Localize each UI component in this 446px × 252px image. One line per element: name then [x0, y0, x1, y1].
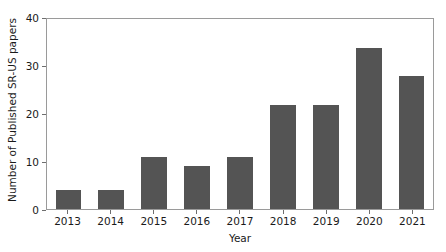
plot-area: [46, 18, 434, 210]
bar: [98, 190, 124, 209]
x-axis-tick-label: 2018: [270, 215, 297, 227]
x-axis-tick-label: 2016: [184, 215, 211, 227]
x-axis-tick-label: 2013: [54, 215, 81, 227]
x-axis-tick-mark: [196, 210, 197, 214]
bar: [141, 157, 167, 209]
y-axis-tick-label: 30: [26, 59, 39, 73]
x-axis-tick: 2019: [305, 210, 348, 232]
x-axis-tick-mark: [110, 210, 111, 214]
x-axis-ticks: 201320142015201620172018201920202021: [46, 210, 434, 232]
y-axis-tick-label: 0: [32, 203, 39, 217]
bar-slot: [219, 19, 262, 209]
bar-slot: [47, 19, 90, 209]
bar-slot: [176, 19, 219, 209]
x-axis-tick-mark: [153, 210, 154, 214]
x-axis-tick-mark: [326, 210, 327, 214]
x-axis-label: Year: [46, 232, 434, 244]
x-axis-tick: 2014: [89, 210, 132, 232]
bar-slot: [261, 19, 304, 209]
bar: [56, 190, 82, 209]
bar-slot: [304, 19, 347, 209]
x-axis-tick-mark: [369, 210, 370, 214]
x-axis-tick-label: 2020: [356, 215, 383, 227]
x-axis-tick-mark: [412, 210, 413, 214]
x-axis-tick-mark: [67, 210, 68, 214]
x-axis-tick: 2021: [391, 210, 434, 232]
x-axis-tick-label: 2021: [399, 215, 426, 227]
y-axis-label: Number of Published SR-US papers: [2, 8, 22, 212]
x-axis-tick-label: 2019: [313, 215, 340, 227]
bar-slot: [133, 19, 176, 209]
bar-slot: [390, 19, 433, 209]
bar: [313, 105, 339, 210]
x-axis-tick: 2013: [46, 210, 89, 232]
x-axis-tick-label: 2017: [227, 215, 254, 227]
bar-chart-figure: Number of Published SR-US papers 0102030…: [0, 0, 446, 252]
x-axis-tick: 2017: [218, 210, 261, 232]
bar-series: [47, 19, 433, 209]
bar: [399, 76, 425, 209]
bar: [270, 105, 296, 210]
y-axis-label-text: Number of Published SR-US papers: [6, 18, 18, 202]
x-axis-tick-label: 2014: [97, 215, 124, 227]
bar: [356, 48, 382, 210]
y-axis-tick-label: 40: [26, 11, 39, 25]
x-axis-tick-label: 2015: [140, 215, 167, 227]
x-axis-tick: 2015: [132, 210, 175, 232]
bar: [227, 157, 253, 209]
bar-slot: [90, 19, 133, 209]
bar: [184, 166, 210, 209]
x-axis-tick: 2018: [262, 210, 305, 232]
x-axis-tick-mark: [239, 210, 240, 214]
bar-slot: [347, 19, 390, 209]
y-axis-tick-label: 20: [26, 107, 39, 121]
y-axis-tick-label: 10: [26, 155, 39, 169]
x-axis-tick-mark: [283, 210, 284, 214]
x-axis-tick: 2016: [175, 210, 218, 232]
x-axis-tick: 2020: [348, 210, 391, 232]
